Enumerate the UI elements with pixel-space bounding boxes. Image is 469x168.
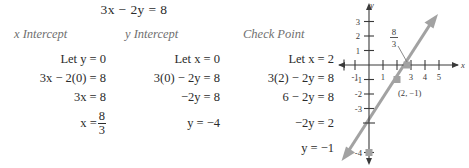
column-header-y-intercept: y Intercept — [125, 27, 178, 42]
x-axis — [338, 60, 459, 71]
step-row-result: −2y = 2 — [224, 107, 334, 139]
step-row-result: y = −4 — [112, 107, 220, 139]
column-header-x-intercept: x Intercept — [14, 27, 67, 42]
x-tick-label: 4 — [423, 72, 428, 82]
y-tick-label: 2 — [356, 31, 360, 41]
step-row-fraction: x =83 — [0, 107, 106, 139]
fraction-prefix: x = — [80, 116, 96, 130]
y-tick-label: -1 — [355, 75, 362, 85]
figure-root: 3x − 2y = 8 x Intercept y Intercept Chec… — [0, 0, 469, 168]
fraction-denominator: 3 — [98, 123, 106, 137]
main-equation: 3x − 2y = 8 — [0, 2, 268, 18]
step-row: Let x = 0 — [112, 50, 220, 69]
step-row-final: y = −1 — [224, 139, 334, 158]
worked-solution: 3x − 2y = 8 x Intercept y Intercept Chec… — [0, 0, 336, 168]
step-row: 3(0) − 2y = 8 — [112, 69, 220, 88]
column-header-check-point: Check Point — [243, 27, 304, 42]
y-tick-label: -2 — [355, 89, 362, 99]
annotation-numerator: 8 — [392, 27, 397, 37]
fraction-8-over-3: 83 — [98, 110, 106, 137]
step-row: Let x = 2 — [224, 50, 334, 69]
column-y-intercept: Let x = 0 3(0) − 2y = 8 −2y = 8 y = −4 — [112, 50, 220, 139]
point-label-2-neg1: (2, −1) — [398, 88, 422, 98]
line-arrow-upper — [425, 14, 439, 29]
step-row: 6 − 2y = 8 — [224, 88, 334, 107]
column-check-point: Let x = 2 3(2) − 2y = 8 6 − 2y = 8 −2y =… — [224, 50, 334, 158]
step-row: −2y = 8 — [112, 88, 220, 107]
y-tick-label: -4 — [355, 148, 363, 158]
point-marker-2-neg1 — [394, 76, 401, 83]
y-tick-label: 1 — [356, 46, 360, 56]
coordinate-graph: -1 1 3 4 5 3 2 1 -1 -2 -3 -4 x y — [336, 0, 469, 168]
x-tick-label: 1 — [381, 72, 385, 82]
y-axis-label: y — [369, 0, 374, 10]
x-axis-arrow-right — [452, 62, 459, 68]
y-tick-label: 3 — [356, 17, 360, 27]
annotation-leader-line — [398, 46, 407, 62]
point-marker-y-intercept — [366, 149, 373, 156]
column-x-intercept: Let y = 0 3x − 2(0) = 8 3x = 8 x =83 — [0, 50, 106, 139]
y-axis-arrow-bottom — [366, 158, 372, 165]
x-tick-label: 5 — [437, 72, 441, 82]
step-row: 3x = 8 — [0, 88, 106, 107]
step-row: 3(2) − 2y = 8 — [224, 69, 334, 88]
x-axis-label: x — [460, 60, 465, 70]
point-marker-x-intercept — [404, 62, 411, 69]
graph-svg: -1 1 3 4 5 3 2 1 -1 -2 -3 -4 x y — [336, 0, 469, 168]
y-tick-label: -3 — [355, 104, 362, 114]
y-axis — [363, 3, 375, 165]
annotation-denominator: 3 — [392, 39, 397, 49]
column-headers: x Intercept y Intercept Check Point — [0, 27, 336, 47]
line-arrow-lower — [342, 147, 356, 162]
step-row: 3x − 2(0) = 8 — [0, 69, 106, 88]
fraction-numerator: 8 — [98, 110, 106, 123]
x-tick-label: 3 — [409, 72, 413, 82]
step-row: Let y = 0 — [0, 50, 106, 69]
annotation-x-intercept-fraction: 8 3 — [390, 27, 407, 62]
